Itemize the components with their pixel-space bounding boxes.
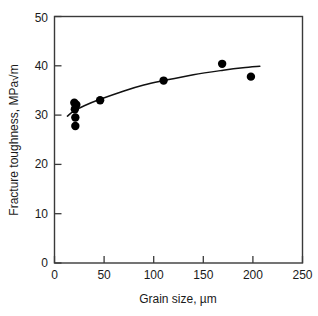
x-axis-title: Grain size, µm — [139, 292, 217, 306]
y-tick-labels: 0 10 20 30 40 50 — [35, 11, 49, 271]
x-tick-labels: 0 50 100 150 200 250 — [51, 268, 313, 282]
x-tick-label-50: 50 — [97, 268, 111, 282]
y-tick-label-20: 20 — [35, 157, 49, 171]
y-tick-label-40: 40 — [35, 59, 49, 73]
data-point — [71, 122, 79, 130]
data-point — [218, 60, 226, 68]
y-tick-label-0: 0 — [41, 256, 48, 270]
fitted-trend-curve — [67, 66, 259, 116]
y-tick-label-50: 50 — [35, 11, 49, 25]
x-tick-label-250: 250 — [292, 268, 312, 282]
y-tick-label-10: 10 — [35, 207, 49, 221]
y-tick-label-30: 30 — [35, 108, 49, 122]
data-point — [71, 105, 79, 113]
plot-frame — [55, 17, 303, 264]
x-tick-label-100: 100 — [144, 268, 164, 282]
y-axis-ticks — [55, 17, 62, 264]
data-point — [159, 76, 167, 84]
x-axis-ticks — [55, 256, 303, 263]
x-tick-label-0: 0 — [51, 268, 58, 282]
x-tick-label-200: 200 — [243, 268, 263, 282]
data-point — [71, 113, 79, 121]
y-axis-title: Fracture toughness, MPa√m — [7, 64, 21, 215]
data-point — [96, 96, 104, 104]
x-tick-label-150: 150 — [193, 268, 213, 282]
fracture-toughness-chart: 0 10 20 30 40 50 0 50 100 150 200 250 Gr… — [0, 0, 318, 316]
data-point — [247, 72, 255, 80]
plot-frame-box — [55, 17, 303, 264]
chart-canvas: 0 10 20 30 40 50 0 50 100 150 200 250 Gr… — [0, 0, 318, 316]
